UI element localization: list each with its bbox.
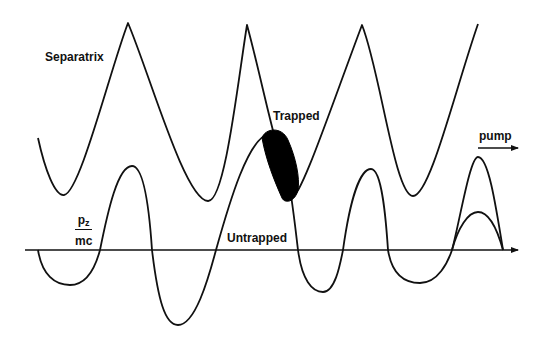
trapped-region [262,130,299,201]
pz-over-mc-label: pz mc [75,213,92,248]
pz-numerator: pz [75,213,92,230]
pump-label: pump [479,130,512,142]
pz-denominator: mc [75,230,92,248]
untrapped-label: Untrapped [227,232,287,244]
pz-subscript: z [85,218,90,228]
pz-symbol: p [78,213,85,227]
trapped-label: Trapped [273,110,320,122]
separatrix-curve [38,23,478,201]
separatrix-label: Separatrix [45,51,104,63]
